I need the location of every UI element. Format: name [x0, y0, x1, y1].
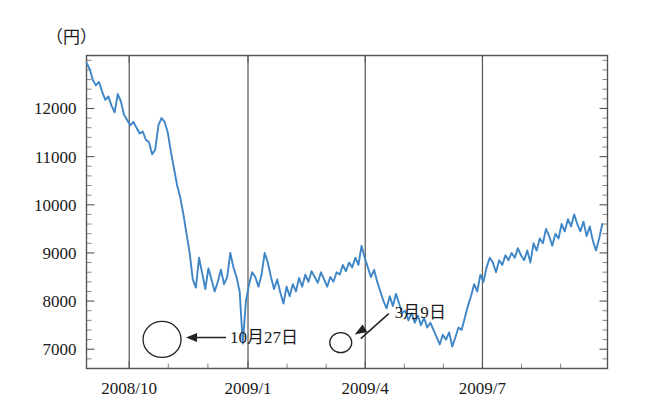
- chart-container: （円） 700080009000100001100012000 2008/102…: [0, 0, 645, 411]
- x-tick-label-1: 2009/1: [224, 379, 271, 398]
- y-tick-label-1: 8000: [43, 292, 77, 311]
- x-tick-label-0: 2008/10: [101, 379, 157, 398]
- oct-low-annotation-label: 10月27日: [230, 328, 298, 347]
- mar-low-annotation-label: 3月9日: [395, 303, 446, 322]
- x-tick-label-2: 2009/4: [342, 379, 390, 398]
- y-axis-unit-label-group: （円）: [46, 28, 97, 47]
- x-tick-label-3: 2009/7: [459, 379, 507, 398]
- y-tick-label-5: 12000: [34, 99, 77, 118]
- y-tick-label-4: 11000: [35, 148, 77, 167]
- chart-background: [0, 0, 645, 411]
- y-tick-label-2: 9000: [43, 244, 77, 263]
- y-tick-label-0: 7000: [43, 340, 77, 359]
- y-axis-unit-label: （円）: [46, 28, 97, 47]
- stock-price-line-chart: （円） 700080009000100001100012000 2008/102…: [0, 0, 645, 411]
- y-tick-label-3: 10000: [34, 196, 77, 215]
